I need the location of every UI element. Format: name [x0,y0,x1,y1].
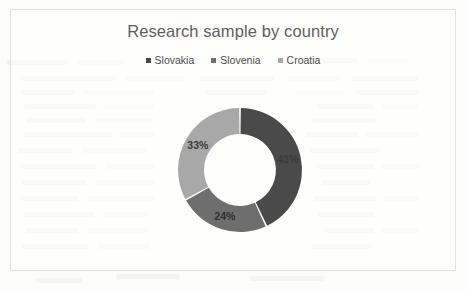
doughnut-chart-svg: 43%24%33% [11,10,457,270]
doughnut-data-label-slovakia: 43% [277,153,299,165]
doughnut-plot-area: 43%24%33% [11,10,455,270]
legend-label-slovakia: Slovakia [155,54,195,66]
legend-item-slovakia[interactable]: Slovakia [146,54,195,66]
legend-swatch-icon-croatia [278,58,283,63]
chart-container: Research sample by country Slovakia Slov… [10,9,456,271]
legend-item-slovenia[interactable]: Slovenia [211,54,260,66]
legend-label-croatia: Croatia [287,54,321,66]
doughnut-slice-group [178,108,302,232]
doughnut-data-label-croatia: 33% [187,139,209,151]
doughnut-data-label-slovenia: 24% [214,210,236,222]
legend-item-croatia[interactable]: Croatia [278,54,321,66]
legend-label-slovenia: Slovenia [220,54,260,66]
legend-swatch-icon-slovakia [146,58,151,63]
legend-swatch-icon-slovenia [211,58,216,63]
chart-legend: Slovakia Slovenia Croatia [11,54,455,66]
doughnut-data-label-group: 43%24%33% [187,139,299,223]
doughnut-slice-croatia[interactable] [178,108,239,199]
doughnut-slice-slovakia[interactable] [241,108,302,226]
chart-title: Research sample by country [11,22,455,41]
doughnut-slice-slovenia[interactable] [186,188,266,232]
